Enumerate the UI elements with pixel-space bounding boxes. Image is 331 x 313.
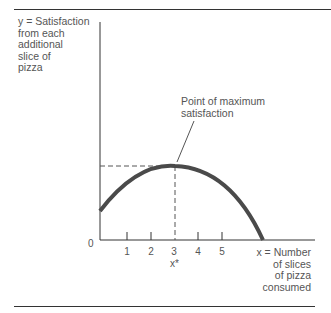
chart-plot — [0, 0, 331, 313]
annotation-leader-line — [177, 121, 194, 162]
satisfaction-curve — [100, 166, 263, 240]
